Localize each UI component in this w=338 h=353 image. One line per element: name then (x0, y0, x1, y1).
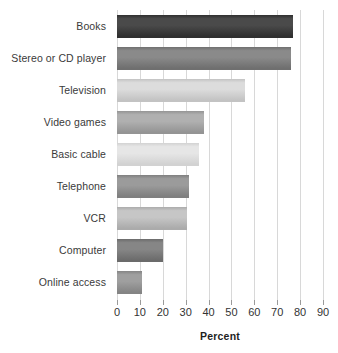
bar-row (117, 47, 323, 70)
x-tick-mark (254, 300, 255, 305)
plot-area (117, 10, 323, 300)
bar-row (117, 207, 323, 230)
bar-row (117, 175, 323, 198)
bar (117, 79, 245, 102)
x-tick-mark (231, 300, 232, 305)
bar-row (117, 111, 323, 134)
x-axis: 0102030405060708090 (117, 300, 323, 322)
category-label: VCR (0, 207, 112, 230)
category-label: Computer (0, 239, 112, 262)
category-label: Online access (0, 271, 112, 294)
bar-row (117, 15, 323, 38)
bar (117, 143, 199, 166)
x-tick-mark (186, 300, 187, 305)
bar (117, 175, 189, 198)
category-label: Basic cable (0, 143, 112, 166)
category-label: Television (0, 79, 112, 102)
gridline (323, 10, 324, 300)
bar-row (117, 239, 323, 262)
category-axis: BooksStereo or CD playerTelevisionVideo … (0, 15, 112, 303)
x-tick-mark (300, 300, 301, 305)
x-tick-mark (323, 300, 324, 305)
x-tick-label: 90 (308, 306, 338, 319)
bar (117, 111, 204, 134)
category-label: Books (0, 15, 112, 38)
x-tick-mark (277, 300, 278, 305)
x-tick-mark (117, 300, 118, 305)
bar-chart: BooksStereo or CD playerTelevisionVideo … (0, 0, 338, 353)
x-tick-mark (163, 300, 164, 305)
x-tick-mark (209, 300, 210, 305)
bar-row (117, 143, 323, 166)
bar (117, 47, 291, 70)
bar (117, 271, 142, 294)
bar (117, 239, 163, 262)
bar (117, 15, 293, 38)
category-label: Stereo or CD player (0, 47, 112, 70)
bars-layer (117, 15, 323, 300)
bar (117, 207, 187, 230)
category-label: Telephone (0, 175, 112, 198)
bar-row (117, 79, 323, 102)
bar-row (117, 271, 323, 294)
category-label: Video games (0, 111, 112, 134)
x-axis-title: Percent (117, 330, 323, 342)
x-tick-mark (140, 300, 141, 305)
